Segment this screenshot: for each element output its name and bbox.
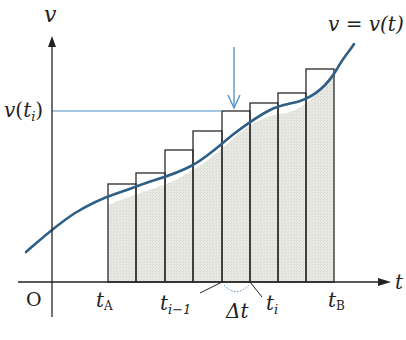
- tA-main: t: [96, 288, 104, 312]
- tB-main: t: [328, 288, 336, 312]
- delta-t-label: Δt: [226, 301, 248, 321]
- y-axis-label: v: [44, 4, 56, 26]
- tick-label-tA: tA: [96, 290, 113, 312]
- diagram-canvas: [0, 0, 406, 340]
- level-label: v(ti): [4, 100, 43, 123]
- tick-label-ti: ti: [266, 293, 278, 316]
- y-axis-arrow-icon: [48, 36, 56, 47]
- ti-main: t: [266, 291, 274, 315]
- tB-sub: B: [336, 299, 345, 313]
- down-arrow-icon: [228, 47, 240, 108]
- level-label-open: (: [15, 98, 23, 122]
- leader-ti: [250, 282, 262, 297]
- ti-minus-1-sub: i−1: [168, 302, 191, 317]
- x-axis-arrow-icon: [378, 278, 391, 286]
- curve-label: v = v(t): [328, 14, 404, 34]
- ti-sub: i: [274, 302, 278, 317]
- area-under-curve: [108, 71, 334, 282]
- riemann-diagram: v t O v = v(t) v(ti) tA ti−1 Δt ti tB: [0, 0, 406, 340]
- x-axis-label: t: [395, 272, 403, 292]
- figure-caption: [100, 326, 320, 338]
- level-label-t: t: [23, 98, 31, 122]
- leader-ti-minus-1: [200, 282, 222, 293]
- level-label-v: v: [4, 98, 15, 122]
- tA-sub: A: [104, 299, 113, 313]
- ti-minus-1-main: t: [160, 291, 168, 315]
- origin-label: O: [26, 290, 42, 309]
- tick-label-tB: tB: [328, 290, 345, 312]
- level-label-close: ): [35, 98, 43, 122]
- tick-label-ti-minus-1: ti−1: [160, 293, 191, 316]
- delta-t-bracket: [224, 285, 249, 292]
